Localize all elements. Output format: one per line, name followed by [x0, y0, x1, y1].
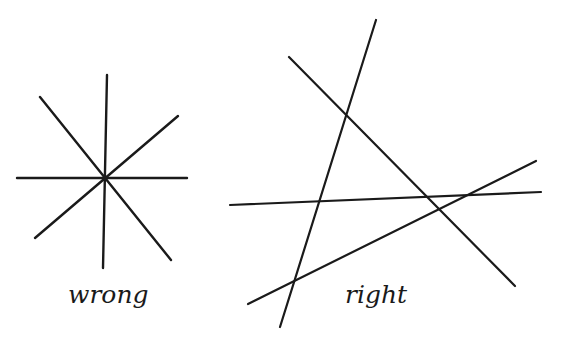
figure-wrong [17, 75, 187, 268]
right-line-3 [230, 192, 541, 205]
common-intersection-point [103, 176, 108, 181]
wrong-line-1 [103, 75, 107, 268]
right-line-2 [289, 57, 515, 286]
label-wrong: wrong [68, 280, 149, 309]
label-right: right [345, 280, 407, 309]
